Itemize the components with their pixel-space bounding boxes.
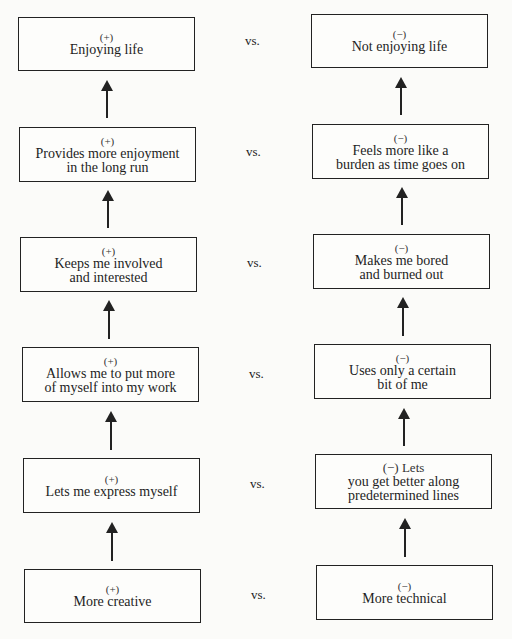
box-text: Feels more like a (352, 144, 448, 158)
box-text: Allows me to put more (46, 367, 175, 381)
up-arrow-icon (103, 300, 115, 339)
up-arrow-icon (106, 522, 118, 561)
positive-sign: (+) (105, 473, 119, 485)
up-arrow-icon (398, 408, 410, 446)
up-arrow-icon (105, 411, 117, 450)
box-text: More technical (362, 592, 446, 606)
right-box-certain-bit: (−) Uses only a certain bit of me (314, 344, 491, 399)
right-box-more-technical: (−) More technical (316, 565, 493, 620)
left-box-express-myself: (+) Lets me express myself (23, 458, 200, 513)
negative-sign: (−) (394, 132, 408, 144)
vs-label: vs. (250, 476, 265, 492)
vs-label: vs. (247, 255, 262, 271)
box-text: in the long run (66, 161, 148, 175)
box-text: More creative (73, 595, 151, 609)
box-text: Lets me express myself (46, 485, 178, 499)
right-box-predetermined-lines: (−) Lets you get better along predetermi… (315, 454, 492, 509)
box-text: you get better along (348, 475, 460, 489)
negative-sign: (−) (396, 352, 410, 364)
positive-sign: (+) (101, 135, 115, 147)
vs-label: vs. (249, 366, 264, 382)
box-text: and interested (69, 271, 147, 285)
box-text: bit of me (377, 378, 428, 392)
up-arrow-icon (396, 187, 408, 225)
positive-sign: (+) (104, 355, 118, 367)
vs-label: vs. (246, 144, 261, 160)
box-text: and burned out (360, 268, 444, 282)
left-box-enjoying-life: (+) Enjoying life (18, 17, 195, 71)
box-text: Enjoying life (70, 43, 144, 57)
box-text: Uses only a certain (349, 364, 456, 378)
up-arrow-icon (101, 80, 113, 118)
up-arrow-icon (395, 77, 407, 115)
vs-label: vs. (251, 587, 266, 603)
box-text: predetermined lines (348, 489, 459, 503)
box-text: Provides more enjoyment (36, 147, 180, 161)
right-box-burden: (−) Feels more like a burden as time goe… (312, 124, 489, 179)
negative-sign: (−) (395, 242, 409, 254)
vs-label: vs. (245, 33, 260, 49)
box-text: Keeps me involved (54, 257, 162, 271)
up-arrow-icon (102, 190, 114, 228)
left-box-more-enjoyment: (+) Provides more enjoyment in the long … (19, 127, 196, 182)
up-arrow-icon (397, 297, 409, 336)
up-arrow-icon (399, 518, 411, 557)
left-box-put-more-of-myself: (+) Allows me to put more of myself into… (22, 347, 199, 402)
positive-sign: (+) (102, 245, 116, 257)
right-box-bored: (−) Makes me bored and burned out (313, 234, 490, 289)
negative-sign: (−) Lets (383, 461, 425, 475)
box-text: Makes me bored (355, 254, 448, 268)
box-text: burden as time goes on (336, 158, 465, 172)
right-box-not-enjoying-life: (−) Not enjoying life (311, 14, 488, 68)
box-text: of myself into my work (44, 381, 176, 395)
left-box-more-creative: (+) More creative (24, 569, 201, 623)
left-box-involved: (+) Keeps me involved and interested (20, 237, 197, 292)
negative-sign: (−) (398, 580, 412, 592)
box-text: Not enjoying life (352, 40, 448, 54)
